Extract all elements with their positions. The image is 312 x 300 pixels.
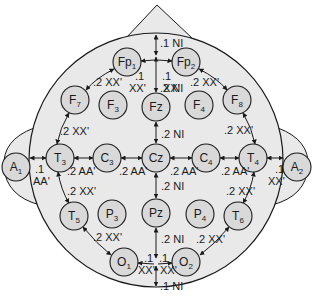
- electrode-label: Cz: [149, 151, 164, 165]
- distance-label: XX': [160, 264, 177, 276]
- distance-label: .2 XX': [226, 185, 255, 197]
- distance-label: .2 NI: [160, 82, 183, 94]
- distance-label: .1 NI: [160, 37, 183, 49]
- distance-label: .2 NI: [161, 128, 184, 140]
- distance-label: .2 AA': [221, 165, 249, 177]
- distance-label: .2 AA': [119, 165, 147, 177]
- distance-label: .1 NI: [160, 280, 183, 292]
- electrode-f7: F7: [61, 86, 89, 114]
- distance-label: .2 XX': [93, 76, 122, 88]
- electrode-fz: Fz: [142, 93, 170, 121]
- electrode-a1: A1: [2, 153, 30, 181]
- electrode-t5: T5: [60, 202, 88, 230]
- distance-label: .2 XX': [224, 124, 253, 136]
- distance-label: .1: [275, 163, 284, 175]
- distance-label: .2 AA': [67, 165, 95, 177]
- distance-label: XX': [129, 82, 146, 94]
- distance-label: .1: [135, 70, 144, 82]
- electrode-a2: A2: [283, 153, 311, 181]
- distance-label: .2 XX': [190, 76, 219, 88]
- distance-label: .2 AA': [170, 165, 198, 177]
- eeg-electrode-diagram: Fp1Fp2F7F3FzF4F8A1T3C3CzC4T4A2T5P3PzP4T6…: [0, 0, 312, 300]
- distance-label: AA': [33, 175, 50, 187]
- electrode-p3: P3: [98, 200, 126, 228]
- distance-label: .1: [159, 252, 168, 264]
- electrode-label: Pz: [149, 206, 163, 220]
- distance-label: .2 XX': [196, 233, 225, 245]
- distance-label: .1: [144, 252, 153, 264]
- electrode-label: Fz: [149, 100, 162, 114]
- electrode-f4: F4: [185, 91, 213, 119]
- electrode-fp2: Fp2: [172, 48, 200, 76]
- distance-label: .1: [35, 163, 44, 175]
- head-map: Fp1Fp2F7F3FzF4F8A1T3C3CzC4T4A2T5P3PzP4T6…: [0, 0, 312, 300]
- distance-label: XX': [268, 175, 285, 187]
- electrode-pz: Pz: [142, 199, 170, 227]
- distance-label: .2 XX': [67, 185, 96, 197]
- electrode-f8: F8: [223, 86, 251, 114]
- distance-label: .2 NI: [161, 180, 184, 192]
- electrode-o1: O1: [110, 248, 138, 276]
- electrode-t6: T6: [224, 202, 252, 230]
- distance-label: .2 XX': [93, 231, 122, 243]
- distance-label: .1: [162, 70, 171, 82]
- electrode-c3: C3: [93, 144, 121, 172]
- distance-label: XX': [138, 264, 155, 276]
- electrode-p4: P4: [186, 200, 214, 228]
- electrode-f3: F3: [99, 91, 127, 119]
- distance-label: .2 NI: [161, 233, 184, 245]
- distance-label: .2 XX': [60, 125, 89, 137]
